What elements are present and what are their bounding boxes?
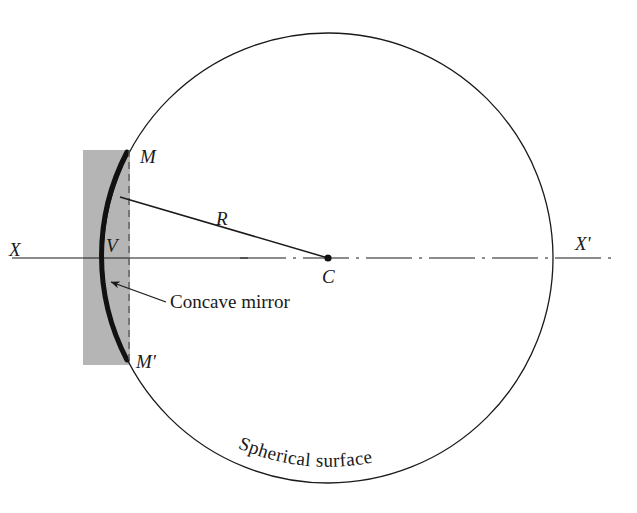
mirror-bottom-label: M' — [135, 351, 157, 372]
center-label: C — [322, 266, 335, 287]
center-of-curvature-dot — [324, 254, 331, 261]
spherical-surface-caption: Spherical surface — [236, 432, 374, 471]
optics-diagram-canvas: X X' M M' V C R Concave mirror Spherical… — [0, 0, 637, 513]
concave-mirror-figure: X X' M M' V C R Concave mirror Spherical… — [0, 0, 637, 513]
axis-right-label: X' — [574, 233, 592, 254]
concave-mirror-callout-label: Concave mirror — [170, 291, 290, 312]
mirror-top-label: M — [139, 146, 157, 167]
spherical-surface-caption-text: Spherical surface — [236, 432, 374, 471]
axis-left-label: X — [8, 239, 22, 260]
radius-label: R — [215, 208, 228, 229]
